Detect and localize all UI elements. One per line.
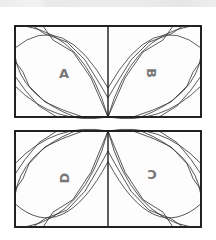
bottom-block: D C xyxy=(15,129,201,227)
label-b: B xyxy=(144,68,159,78)
label-d: D xyxy=(57,172,72,183)
label-c: C xyxy=(147,167,157,182)
label-a: A xyxy=(59,66,69,81)
quilt-diagram: A B D C xyxy=(0,0,216,240)
top-block: A B xyxy=(15,26,201,119)
